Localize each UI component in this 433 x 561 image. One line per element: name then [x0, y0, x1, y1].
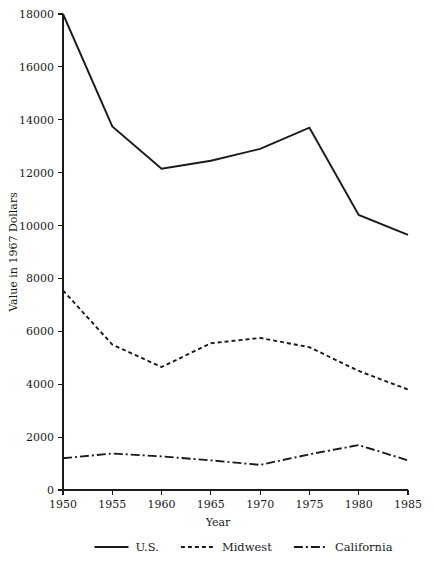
y-tick-label: 18000	[19, 8, 54, 21]
x-tick-label: 1965	[197, 498, 225, 511]
series-line-u-s	[63, 14, 408, 235]
data-series-group	[63, 14, 408, 465]
y-axis: 0200040006000800010000120001400016000180…	[19, 8, 63, 497]
x-axis-ticks: 19501955196019651970197519801985	[49, 490, 422, 511]
x-tick-label: 1950	[49, 498, 77, 511]
x-tick-label: 1980	[345, 498, 373, 511]
y-tick-label: 2000	[26, 431, 54, 444]
y-tick-label: 16000	[19, 61, 54, 74]
x-tick-label: 1975	[295, 498, 323, 511]
x-axis: 19501955196019651970197519801985	[49, 490, 422, 511]
x-axis-title: Year	[205, 516, 231, 529]
y-axis-ticks: 0200040006000800010000120001400016000180…	[19, 8, 63, 497]
x-tick-label: 1970	[246, 498, 274, 511]
legend-label-california: California	[335, 540, 393, 554]
y-tick-label: 10000	[19, 220, 54, 233]
chart-legend: U.S.MidwestCalifornia	[94, 540, 392, 554]
y-tick-label: 8000	[26, 272, 54, 285]
series-line-midwest	[63, 290, 408, 389]
line-chart-svg: 0200040006000800010000120001400016000180…	[0, 0, 433, 561]
legend-label-u-s: U.S.	[135, 540, 158, 554]
series-line-california	[63, 445, 408, 465]
legend-label-midwest: Midwest	[222, 540, 272, 554]
y-axis-title: Value in 1967 Dollars	[7, 192, 20, 313]
x-tick-label: 1985	[394, 498, 422, 511]
y-tick-label: 14000	[19, 114, 54, 127]
y-tick-label: 4000	[26, 378, 54, 391]
chart-figure: 0200040006000800010000120001400016000180…	[0, 0, 433, 561]
y-tick-label: 12000	[19, 167, 54, 180]
y-tick-label: 0	[47, 484, 54, 497]
x-tick-label: 1960	[148, 498, 176, 511]
x-tick-label: 1955	[98, 498, 126, 511]
y-tick-label: 6000	[26, 325, 54, 338]
